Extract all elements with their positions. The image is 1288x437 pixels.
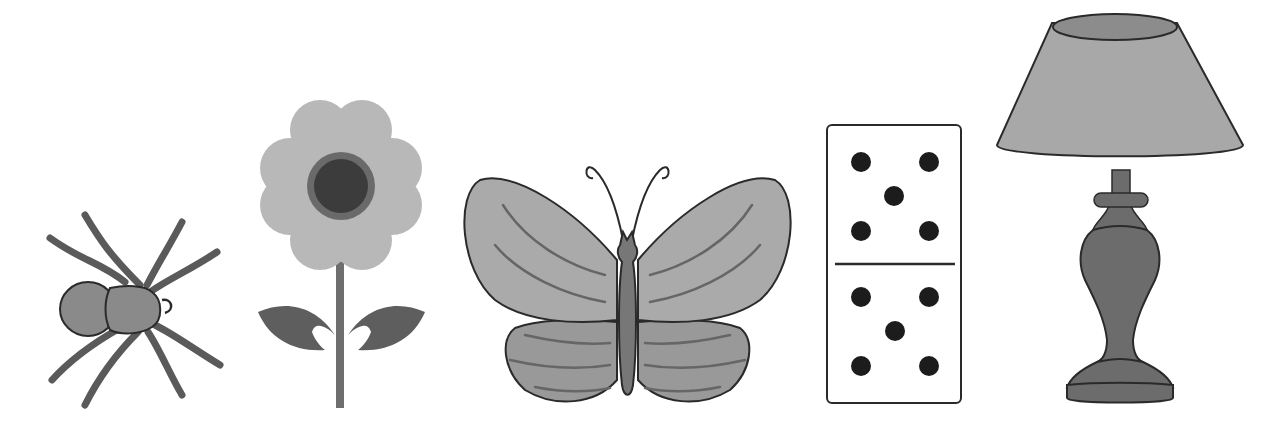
flower-icon xyxy=(240,90,440,420)
butterfly-icon xyxy=(455,150,800,420)
object-lineup: spider flower butterfly domino lamp xyxy=(0,0,1288,437)
lamp-icon xyxy=(985,0,1255,420)
domino-icon xyxy=(815,115,975,415)
spider-icon xyxy=(30,200,240,420)
